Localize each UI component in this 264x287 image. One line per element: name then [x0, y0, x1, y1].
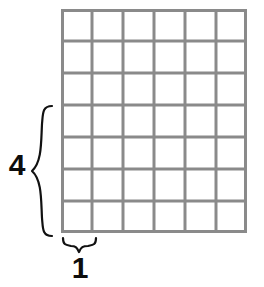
- grid-svg: [61, 9, 247, 233]
- figure-canvas: 4 1: [0, 0, 264, 287]
- width-dimension-label: 1: [62, 253, 98, 283]
- height-brace-icon: [26, 104, 56, 238]
- unit-square-grid: [61, 9, 247, 233]
- height-dimension-label: 4: [4, 150, 30, 180]
